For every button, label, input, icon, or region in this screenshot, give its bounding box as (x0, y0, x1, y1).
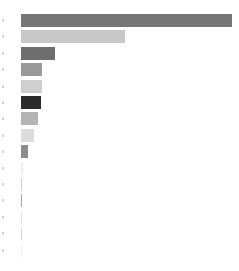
bar (21, 96, 41, 109)
bar (21, 112, 38, 125)
y-axis-tick (2, 232, 4, 235)
bar-row (21, 178, 22, 191)
y-axis-tick (2, 85, 4, 88)
bar-row (21, 47, 55, 60)
bar-row (21, 244, 22, 257)
bar-row (21, 80, 42, 93)
y-axis-tick (2, 167, 4, 170)
bar-row (21, 63, 42, 76)
y-axis-tick (2, 52, 4, 55)
y-axis-tick (2, 35, 4, 38)
bar-row (21, 211, 22, 224)
bar (21, 227, 22, 240)
y-axis-tick (2, 199, 4, 202)
y-axis-tick (2, 150, 4, 153)
bar (21, 162, 23, 175)
bar (21, 14, 232, 27)
bar (21, 63, 42, 76)
bar-row (21, 112, 38, 125)
bar (21, 30, 125, 43)
bar-row (21, 96, 41, 109)
bar-row (21, 30, 125, 43)
y-axis-tick (2, 134, 4, 137)
bar (21, 47, 55, 60)
bar-chart (0, 0, 239, 271)
bar-row (21, 227, 22, 240)
y-axis-tick (2, 183, 4, 186)
y-axis-tick (2, 19, 4, 22)
y-axis-tick (2, 101, 4, 104)
bar (21, 194, 22, 207)
bar (21, 178, 22, 191)
y-axis-tick (2, 117, 4, 120)
plot-area (21, 14, 233, 261)
bar (21, 80, 42, 93)
y-axis-tick-group (0, 14, 12, 261)
bar-row (21, 14, 232, 27)
y-axis-tick (2, 216, 4, 219)
bar (21, 244, 22, 257)
bar (21, 129, 34, 142)
bar-row (21, 194, 22, 207)
y-axis-tick (2, 68, 4, 71)
bar (21, 145, 28, 158)
bar-row (21, 162, 23, 175)
y-axis-tick (2, 249, 4, 252)
bar-row (21, 129, 34, 142)
bar (21, 211, 22, 224)
bar-row (21, 145, 28, 158)
